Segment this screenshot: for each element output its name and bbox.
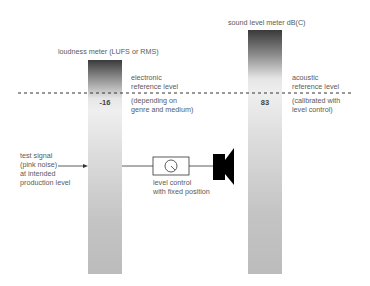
arrow-head-icon (83, 164, 88, 168)
diagram-lines (0, 0, 370, 286)
speaker-icon (213, 148, 234, 185)
